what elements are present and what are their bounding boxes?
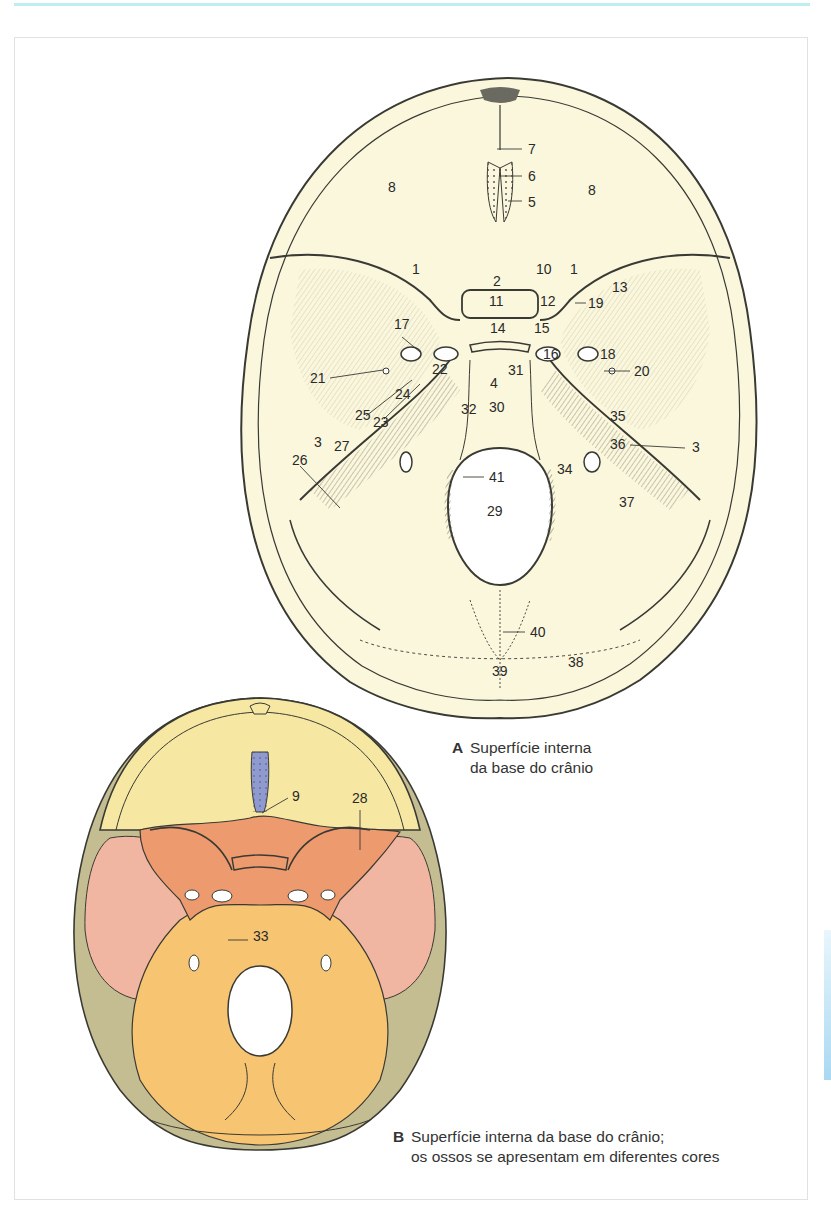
figure-a-label-10: 10	[536, 261, 552, 277]
figure-a-label-19: 19	[588, 295, 604, 311]
figure-a-label-1: 1	[570, 261, 578, 277]
figure-a-label-30: 30	[489, 399, 505, 415]
figure-a-label-5: 5	[528, 194, 536, 210]
figure-a-label-21: 21	[310, 370, 326, 386]
figure-a-label-24: 24	[395, 386, 411, 402]
figure-b-label-33: 33	[253, 928, 269, 944]
figure-a-label-12: 12	[540, 293, 556, 309]
figure-a-label-23: 23	[373, 414, 389, 430]
figure-a-label-4: 4	[490, 375, 498, 391]
figure-a-skull-base: 1123345678810111213141516171819202122232…	[241, 78, 756, 718]
figure-a-label-11: 11	[489, 293, 504, 309]
figure-a-label-3: 3	[314, 434, 322, 450]
figure-a-label-32: 32	[461, 401, 477, 417]
figure-b-caption: BSuperfície interna da base do crânio; o…	[393, 1127, 719, 1167]
figure-a-label-36: 36	[610, 436, 626, 452]
figure-a-label-40: 40	[530, 624, 546, 640]
figure-a-label-16: 16	[543, 346, 559, 362]
figure-a-caption-line1: Superfície interna	[470, 739, 592, 756]
figure-a-caption-line2: da base do crânio	[452, 758, 593, 778]
figure-b-label-9: 9	[292, 788, 300, 804]
figure-a-label-1: 1	[412, 261, 420, 277]
figure-a-label-18: 18	[600, 346, 616, 362]
figure-a-label-20: 20	[634, 363, 650, 379]
figure-b-letter: B	[393, 1127, 411, 1147]
figure-a-label-27: 27	[334, 438, 350, 454]
figure-a-label-2: 2	[493, 273, 501, 289]
figure-b-colored-skull-base: 92833	[74, 698, 446, 1150]
figure-a-label-8: 8	[588, 182, 596, 198]
skull-base-illustrations: 1123345678810111213141516171819202122232…	[0, 0, 831, 1207]
figure-a-label-39: 39	[492, 663, 508, 679]
figure-b-caption-line2: os ossos se apresentam em diferentes cor…	[393, 1147, 719, 1167]
figure-a-label-41: 41	[489, 469, 505, 485]
figure-a-label-25: 25	[355, 407, 371, 423]
figure-a-letter: A	[452, 738, 470, 758]
figure-a-label-29: 29	[487, 503, 503, 519]
figure-a-label-15: 15	[534, 320, 550, 336]
figure-a-label-37: 37	[619, 494, 635, 510]
figure-a-label-6: 6	[528, 168, 536, 184]
figure-a-label-31: 31	[508, 362, 524, 378]
figure-a-label-7: 7	[528, 141, 536, 157]
figure-a-label-22: 22	[432, 361, 448, 377]
figure-a-caption: ASuperfície interna da base do crânio	[452, 738, 593, 778]
figure-a-label-38: 38	[568, 654, 584, 670]
figure-a-label-34: 34	[557, 461, 573, 477]
figure-a-label-26: 26	[292, 452, 308, 468]
figure-a-label-8: 8	[388, 179, 396, 195]
figure-a-label-35: 35	[610, 408, 626, 424]
figure-a-label-3: 3	[692, 439, 700, 455]
figure-b-caption-line1: Superfície interna da base do crânio;	[411, 1128, 664, 1145]
figure-b-label-28: 28	[352, 790, 368, 806]
figure-a-label-17: 17	[394, 316, 410, 332]
figure-a-label-13: 13	[612, 279, 628, 295]
figure-a-label-14: 14	[490, 320, 506, 336]
